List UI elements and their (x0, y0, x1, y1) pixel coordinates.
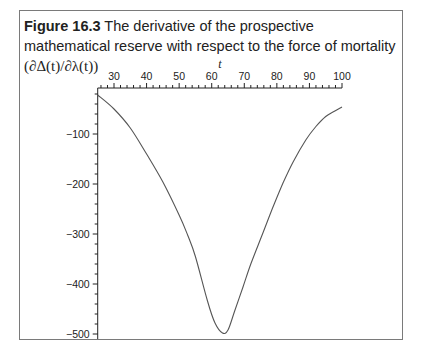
x-tick-label: 100 (333, 70, 351, 82)
x-tick-label: 90 (304, 70, 316, 82)
y-tick-label: −100 (66, 128, 90, 140)
x-tick-label: 30 (108, 70, 120, 82)
x-axis-title: t (218, 57, 222, 71)
line-chart: 30405060708090100t−100−200−300−400−500 (0, 0, 421, 351)
x-tick-label: 50 (173, 70, 185, 82)
chart-axes: 30405060708090100t−100−200−300−400−500 (66, 57, 351, 340)
x-tick-label: 40 (141, 70, 153, 82)
x-tick-label: 70 (238, 70, 250, 82)
y-tick-label: −200 (66, 178, 90, 190)
x-tick-label: 60 (206, 70, 218, 82)
y-tick-label: −400 (66, 278, 90, 290)
y-tick-label: −300 (66, 228, 90, 240)
plot-area (98, 95, 342, 334)
y-tick-label: −500 (66, 328, 90, 340)
x-tick-label: 80 (271, 70, 283, 82)
data-series-line (98, 95, 342, 334)
